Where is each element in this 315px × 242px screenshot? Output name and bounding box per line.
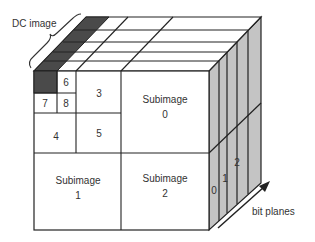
subimage-2-label: Subimage — [142, 173, 187, 184]
subimage-0-index: 0 — [162, 109, 168, 120]
subband-5-label: 5 — [96, 128, 102, 139]
subband-6-label: 6 — [63, 77, 69, 88]
subimage-1-index: 1 — [75, 190, 81, 201]
subband-8-label: 8 — [63, 98, 69, 109]
bit-plane-2-label: 2 — [234, 157, 240, 168]
diagram-canvas: 6 7 8 3 4 5 Subimage 0 Subimage 1 Subima… — [0, 0, 315, 242]
bit-plane-1-label: 1 — [222, 173, 228, 184]
subband-3-label: 3 — [96, 88, 102, 99]
subband-4-label: 4 — [53, 131, 59, 142]
bitplane-cube-diagram: 6 7 8 3 4 5 Subimage 0 Subimage 1 Subima… — [0, 0, 315, 242]
subimage-1-label: Subimage — [55, 175, 100, 186]
dc-block — [34, 71, 57, 93]
bit-plane-0-label: 0 — [211, 185, 217, 196]
bit-planes-label: bit planes — [252, 206, 295, 217]
subimage-2-index: 2 — [162, 188, 168, 199]
subband-7-label: 7 — [42, 98, 48, 109]
subimage-0-label: Subimage — [142, 94, 187, 105]
dc-image-label: DC image — [12, 18, 57, 29]
